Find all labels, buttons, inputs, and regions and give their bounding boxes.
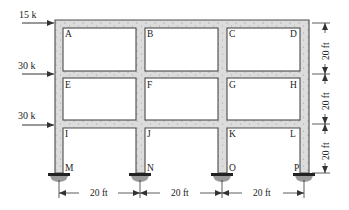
dim-label-bay-1: 20 ft <box>90 188 108 198</box>
joint-K: K <box>229 129 236 139</box>
bay-EF-IJ <box>63 78 136 120</box>
dim-label-story-1: 20 ft <box>321 142 331 160</box>
dim-label-bay-2: 20 ft <box>171 188 189 198</box>
joint-A: A <box>65 29 72 39</box>
load-label-first: 30 k <box>18 110 36 121</box>
frame-members <box>55 20 309 173</box>
joint-B: B <box>147 29 153 39</box>
frame-diagram: 15 k 30 k 30 k A B C D E F G H I J K L M… <box>0 0 349 210</box>
dim-label-bay-3: 20 ft <box>253 188 271 198</box>
joint-P: P <box>294 163 299 173</box>
bay-BC-FG <box>145 28 218 71</box>
joint-L: L <box>290 129 296 139</box>
bay-AB-EF <box>63 28 136 71</box>
joint-J: J <box>147 129 151 139</box>
joint-E: E <box>65 80 71 90</box>
load-label-second: 30 k <box>18 60 36 71</box>
joint-F: F <box>147 80 152 90</box>
supports <box>48 173 315 182</box>
dim-label-story-2: 20 ft <box>321 92 331 110</box>
joint-C: C <box>229 29 235 39</box>
joint-D: D <box>290 29 297 39</box>
loads: 15 k 30 k 30 k <box>18 9 54 125</box>
joint-O: O <box>229 163 236 173</box>
joint-M: M <box>65 163 74 173</box>
joint-N: N <box>147 163 154 173</box>
bay-FG-JK <box>145 78 218 120</box>
load-label-roof: 15 k <box>19 9 37 20</box>
joint-I: I <box>65 129 68 139</box>
joint-H: H <box>290 80 297 90</box>
joint-G: G <box>229 80 236 90</box>
dim-label-story-3: 20 ft <box>321 42 331 60</box>
